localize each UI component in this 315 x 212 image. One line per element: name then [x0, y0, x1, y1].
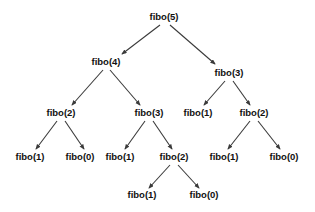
tree-node-n4: fibo(3) — [134, 107, 163, 118]
tree-edge-arrow — [233, 81, 250, 105]
tree-edge-arrow — [110, 70, 140, 105]
tree-node-n14: fibo(0) — [189, 189, 218, 200]
tree-edge-arrow — [72, 70, 103, 105]
tree-node-n2: fibo(3) — [214, 67, 243, 78]
tree-edge-arrow — [153, 121, 172, 149]
tree-node-n5: fibo(1) — [183, 107, 212, 118]
tree-node-n6: fibo(2) — [239, 107, 268, 118]
tree-node-n8: fibo(0) — [65, 151, 94, 162]
tree-node-n3: fibo(2) — [46, 107, 75, 118]
tree-edge-arrow — [65, 121, 84, 149]
tree-node-n11: fibo(1) — [209, 151, 238, 162]
tree-edge-arrow — [170, 25, 215, 64]
tree-edge-arrow — [178, 165, 199, 188]
tree-node-n10: fibo(2) — [159, 151, 188, 162]
tree-edge-arrow — [228, 121, 250, 149]
tree-node-n9: fibo(1) — [105, 151, 134, 162]
tree-edge-arrow — [204, 81, 225, 105]
tree-node-n13: fibo(1) — [127, 189, 156, 200]
tree-edge-arrow — [36, 121, 57, 149]
tree-node-n1: fibo(4) — [91, 56, 120, 67]
tree-node-n0: fibo(5) — [149, 11, 178, 22]
tree-node-n12: fibo(0) — [269, 151, 298, 162]
fibonacci-recursion-tree: fibo(5)fibo(4)fibo(3)fibo(2)fibo(3)fibo(… — [0, 0, 315, 212]
tree-node-n7: fibo(1) — [15, 151, 44, 162]
tree-edge-arrow — [258, 121, 280, 149]
tree-edge-arrow — [122, 25, 160, 54]
tree-edges-layer — [0, 0, 315, 212]
tree-edge-arrow — [125, 121, 145, 149]
tree-edge-arrow — [149, 165, 170, 188]
